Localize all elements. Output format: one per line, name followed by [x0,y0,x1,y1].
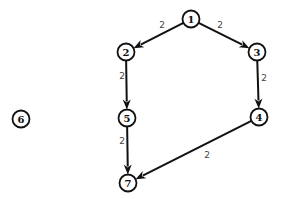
node-1: 1 [183,11,200,28]
node-label: 5 [124,113,131,124]
node-label: 1 [188,14,195,25]
graph-diagram: 222222 1234567 [0,0,282,199]
edge-3-4 [254,60,262,108]
edge-line [126,60,127,101]
node-label: 6 [18,114,25,125]
edge-line [143,121,252,176]
edge-weight-label: 2 [204,150,210,160]
node-5: 5 [119,110,136,127]
node-3: 3 [249,44,266,61]
edge-5-7 [124,126,132,174]
edge-1-3 [199,23,250,48]
edge-weight-label: 2 [159,20,165,30]
node-2: 2 [118,44,135,61]
node-label: 4 [256,112,263,123]
node-label: 3 [254,47,261,58]
edge-weight-label: 2 [119,71,125,81]
node-label: 7 [125,178,132,189]
edge-2-5 [123,60,131,109]
edges-layer [123,23,263,179]
edge-weight-label: 2 [217,20,223,30]
edge-4-7 [136,121,252,179]
edge-line [127,126,128,166]
edge-weight-label: 2 [261,73,267,83]
edge-labels-layer: 222222 [119,20,267,160]
edge-weight-label: 2 [119,136,125,146]
edge-line [257,60,258,100]
node-4: 4 [251,109,268,126]
node-7: 7 [120,175,137,192]
node-6: 6 [13,111,30,128]
node-label: 2 [123,47,130,58]
